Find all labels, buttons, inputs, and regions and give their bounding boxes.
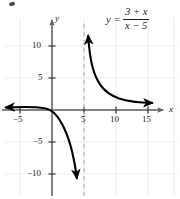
equation-denominator: x − 5: [123, 20, 149, 32]
equation-equals-sign: =: [113, 14, 123, 25]
x-tick-label-15: 15: [142, 114, 151, 124]
x-tick-label-5: 5: [81, 114, 86, 124]
equation-label: y = 3 + x x − 5: [106, 7, 149, 31]
equation-numerator: 3 + x: [123, 7, 149, 19]
y-tick-label-5: 5: [38, 72, 43, 82]
y-axis-label: y: [55, 13, 59, 23]
y-tick-label-neg5: −5: [33, 136, 43, 146]
equation-fraction: 3 + x x − 5: [123, 7, 149, 31]
y-tick-label-10: 10: [32, 40, 41, 50]
x-axis-label: x: [169, 104, 173, 114]
y-tick-label-neg10: −10: [27, 168, 41, 178]
x-tick-label-10: 10: [110, 114, 119, 124]
equation-lhs: y: [106, 14, 113, 25]
rational-function-figure: y = 3 + x x − 5 x y −5 5 10 15 10 5 −5 −…: [0, 0, 180, 199]
x-tick-label-neg5: −5: [13, 114, 23, 124]
